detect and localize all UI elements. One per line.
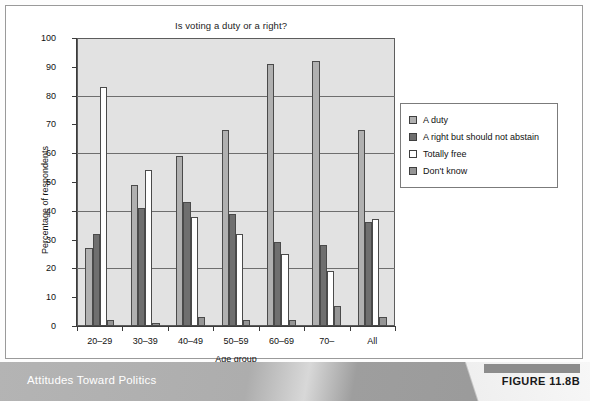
y-tick-label: 20 — [32, 264, 56, 273]
y-tick-label: 100 — [32, 34, 56, 43]
x-tick-mark — [259, 326, 260, 331]
bar — [138, 208, 145, 326]
figure-footer: Attitudes Toward Politics FIGURE 11.8B — [0, 362, 590, 401]
bar — [372, 219, 379, 326]
y-tick-mark — [72, 297, 77, 298]
bar — [358, 130, 365, 326]
figure-page: Is voting a duty or a right? 01020304050… — [0, 0, 590, 401]
bar — [379, 317, 386, 326]
bar — [281, 254, 288, 326]
bar-group — [213, 38, 258, 326]
footer-title: Attitudes Toward Politics — [27, 374, 156, 386]
bar — [100, 87, 107, 326]
bar — [236, 234, 243, 326]
y-axis-title: Percentage of respondents — [40, 146, 50, 254]
y-tick-mark — [72, 67, 77, 68]
y-tick-label: 90 — [32, 63, 56, 72]
legend-item: A right but should not abstain — [409, 128, 549, 145]
bar — [85, 248, 92, 326]
legend-swatch-icon — [409, 133, 417, 141]
x-tick-mark — [77, 326, 78, 331]
bar-group — [259, 38, 304, 326]
bar — [312, 61, 319, 326]
bar — [229, 214, 236, 326]
plot-area — [77, 38, 395, 326]
bar-group — [77, 38, 122, 326]
y-tick-mark — [72, 211, 77, 212]
y-tick-label: 10 — [32, 293, 56, 302]
chart-legend: A dutyA right but should not abstainTota… — [400, 103, 558, 188]
bar — [327, 271, 334, 326]
legend-label: A duty — [423, 115, 448, 125]
legend-item: A duty — [409, 111, 549, 128]
x-tick-mark — [350, 326, 351, 331]
bar — [222, 130, 229, 326]
legend-swatch-icon — [409, 116, 417, 124]
y-tick-mark — [72, 153, 77, 154]
y-tick-mark — [72, 38, 77, 39]
legend-label: Totally free — [423, 149, 467, 159]
x-axis-line — [76, 326, 396, 327]
x-tick-mark — [122, 326, 123, 331]
legend-swatch-icon — [409, 150, 417, 158]
bar — [183, 202, 190, 326]
x-tick-mark — [304, 326, 305, 331]
figure-badge-bar — [484, 364, 580, 373]
y-tick-mark — [72, 124, 77, 125]
x-tick-mark — [213, 326, 214, 331]
bar-group — [304, 38, 349, 326]
chart-title: Is voting a duty or a right? — [66, 20, 396, 31]
x-tick-label: All — [342, 336, 402, 346]
legend-label: Don't know — [423, 166, 467, 176]
y-tick-label: 80 — [32, 92, 56, 101]
y-tick-label: 0 — [32, 322, 56, 331]
bar — [191, 217, 198, 326]
bar — [365, 222, 372, 326]
figure-badge: FIGURE 11.8B — [502, 375, 580, 387]
y-tick-label: 70 — [32, 120, 56, 129]
bar — [93, 234, 100, 326]
legend-item: Totally free — [409, 145, 549, 162]
y-tick-mark — [72, 96, 77, 97]
bar — [145, 170, 152, 326]
y-tick-mark — [72, 240, 77, 241]
bar — [334, 306, 341, 326]
bar — [320, 245, 327, 326]
bar-group — [350, 38, 395, 326]
bar — [176, 156, 183, 326]
y-tick-mark — [72, 268, 77, 269]
legend-label: A right but should not abstain — [423, 132, 539, 142]
legend-swatch-icon — [409, 167, 417, 175]
x-tick-mark — [168, 326, 169, 331]
bar — [131, 185, 138, 326]
y-tick-mark — [72, 182, 77, 183]
figure-frame: Is voting a duty or a right? 01020304050… — [5, 5, 583, 359]
legend-item: Don't know — [409, 162, 549, 179]
bar-group — [122, 38, 167, 326]
bar-group — [168, 38, 213, 326]
bar — [274, 242, 281, 326]
bar — [198, 317, 205, 326]
x-tick-mark — [395, 326, 396, 331]
bar — [267, 64, 274, 326]
